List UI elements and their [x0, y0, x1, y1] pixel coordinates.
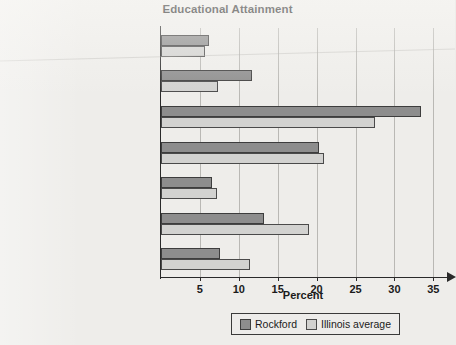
legend-label: Rockford: [255, 318, 297, 330]
x-tick-mark: [317, 277, 318, 281]
bar: [161, 188, 217, 199]
bar: [161, 224, 309, 235]
bar: [161, 153, 324, 164]
bar: [161, 35, 209, 46]
chart-title: Educational Attainment: [0, 3, 455, 15]
gridline: [394, 28, 395, 277]
x-axis-title: Percent: [161, 289, 445, 301]
x-tick-mark: [356, 277, 357, 281]
bar: [161, 213, 264, 224]
gridline: [433, 28, 434, 277]
bar: [161, 248, 220, 259]
bar: [161, 106, 421, 117]
x-axis-arrow-icon: [447, 272, 456, 282]
x-tick-mark: [278, 277, 279, 281]
bar: [161, 81, 218, 92]
x-tick-mark: [200, 277, 201, 281]
bar: [161, 177, 212, 188]
legend-label: Illinois average: [321, 318, 391, 330]
bar: [161, 259, 250, 270]
x-tick-mark: [433, 277, 434, 281]
x-axis-line: [160, 277, 449, 278]
legend-item[interactable]: Illinois average: [306, 318, 391, 330]
bar: [161, 46, 205, 57]
x-tick-mark: [239, 277, 240, 281]
bar: [161, 142, 319, 153]
light-gray-swatch: [306, 319, 317, 330]
dark-gray-swatch: [240, 319, 251, 330]
chart-legend: RockfordIllinois average: [231, 313, 400, 335]
plot-area: 5101520253035: [161, 28, 445, 277]
bar: [161, 70, 252, 81]
x-tick-mark: [394, 277, 395, 281]
bar: [161, 117, 375, 128]
gridline: [356, 28, 357, 277]
legend-item[interactable]: Rockford: [240, 318, 297, 330]
